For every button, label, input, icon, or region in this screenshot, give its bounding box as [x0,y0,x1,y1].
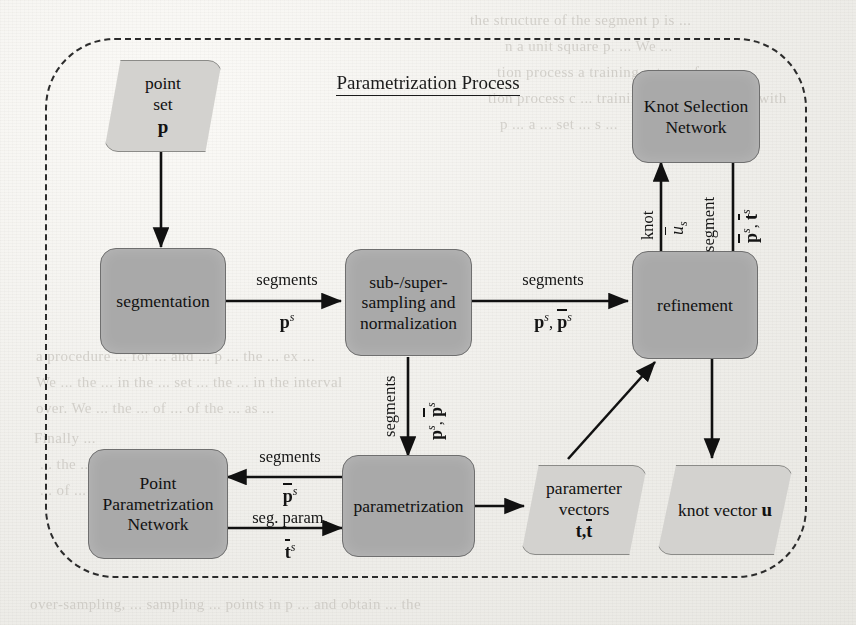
node-knot-selection-network[interactable]: Knot Selection Network [632,70,760,163]
node-paramvectors-line1: paramerter [546,478,622,499]
node-point-set-symbol: p [145,116,181,138]
node-segmentation[interactable]: segmentation [100,248,226,354]
node-parametrization[interactable]: parametrization [342,455,475,557]
superscript-s: s [290,310,295,324]
label-segments-vertical: segments [380,376,399,437]
node-paramvectors-line2: vectors [546,499,622,520]
node-segmentation-label: segmentation [116,291,209,312]
node-point-parametrization-network[interactable]: Point Parametrization Network [88,449,228,559]
symbol-t-bar-1: t [740,214,763,220]
node-subsampling-line2: sampling and [360,292,457,313]
edge-label-segmentation-subsampling: segments [237,270,337,291]
bleedthrough-text: over-sampling, ... sampling ... points i… [30,596,421,613]
symbol-p-2: p [426,430,446,440]
diagram-title-text: Parametrization Process [336,72,519,96]
edge-label-subsampling-refinement: segments [498,270,608,291]
edge-label-seg-sub-top: segments [237,270,337,291]
node-subsampling-normalization[interactable]: sub-/super- sampling and normalization [345,249,472,356]
edge-label-subsampling-refinement-symbol: ps, ps [498,310,608,333]
node-ppn-line2: Parametrization [103,494,214,515]
label-knot: knot [638,211,657,240]
edge-label-refinement-knotnet-word: knot [638,211,659,240]
node-knot-vector[interactable]: knot vector u [657,465,793,555]
bleedthrough-text: the structure of the segment p is ... [470,12,691,29]
node-knotnet-line1: Knot Selection [644,96,749,117]
comma-1: , [549,313,553,332]
symbol-p-bar-3: p [425,407,448,417]
superscript-s-8: s [291,540,296,554]
superscript-s-5: s [424,425,438,430]
edge-label-ppn-out-top: seg. param. [232,508,348,529]
symbol-u-bar: u [666,226,689,235]
node-point-set-line2: set [145,94,181,115]
symbol-p-bar-4: p [283,485,293,508]
symbol-t-bar: t [586,521,592,542]
node-parametrization-label: parametrization [354,496,464,517]
node-refinement-label: refinement [657,295,733,316]
comma-3: , [427,421,446,425]
edge-label-refinement-knotnet-symbol: us [666,221,691,235]
symbol-p-bar-1: p [557,311,567,334]
node-point-set[interactable]: point set p [104,60,222,152]
node-refinement[interactable]: refinement [632,251,758,359]
node-point-set-line1: point [145,73,181,94]
symbol-p-bar-2: p [740,233,763,243]
node-subsampling-line3: normalization [360,313,457,334]
symbol-t-bar-2: t [285,541,291,564]
edge-label-knotnet-refinement-symbol: ps, ts [739,209,762,243]
edge-label-ppn-parametrization-symbol: ts [232,540,348,563]
node-subsampling-line1: sub-/super- [360,272,457,293]
node-knotvector-label: knot vector [678,500,757,520]
diagram-page: the structure of the segment p is ...n a… [0,0,856,625]
edge-label-ppn-parametrization: seg. param. [232,508,348,529]
edge-label-knotnet-refinement-word: segment [699,197,720,252]
node-knotnet-line2: Network [644,117,749,138]
comma-2: , [742,224,761,228]
edge-label-ppn-in-top: segments [235,447,345,468]
node-paramvectors-symbols: t,t [546,521,622,542]
edge-label-subsampling-parametrization-symbol: ps, ps [424,402,447,440]
label-segment: segment [699,197,718,252]
node-ppn-line3: Network [103,514,214,535]
symbol-t-plain: t, [576,521,587,541]
node-parameter-vectors[interactable]: paramerter vectors t,t [521,465,647,555]
edge-label-parametrization-ppn-symbol: ps [235,484,345,507]
symbol-p: p [280,312,290,332]
edge-label-parametrization-ppn: segments [235,447,345,468]
symbol-p-1: p [534,312,544,332]
edge-label-sub-ref-top: segments [498,270,608,291]
node-knotvector-symbol: u [762,499,773,520]
superscript-s-7: s [293,484,298,498]
node-ppn-line1: Point [103,473,214,494]
edge-label-subsampling-parametrization-word: segments [380,376,401,437]
superscript-s-2: s [567,310,572,324]
edge-label-segmentation-subsampling-symbol: ps [237,310,337,333]
